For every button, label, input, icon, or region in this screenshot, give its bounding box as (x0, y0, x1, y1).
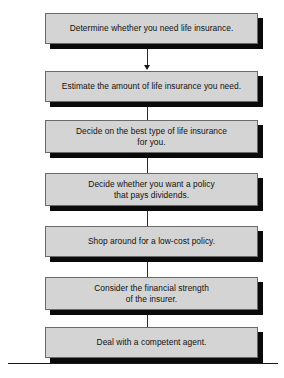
flowchart-connector-1-2 (143, 49, 152, 70)
flowchart-node-4-label: Decide whether you want a policy that pa… (82, 179, 220, 201)
connector-stem (147, 158, 148, 173)
flowchart-node-3-label: Decide on the best type of life insuranc… (70, 126, 233, 148)
connector-stem (147, 49, 148, 65)
bottom-divider (8, 363, 278, 364)
flowchart-node-1-label: Determine whether you need life insuranc… (64, 23, 240, 34)
flowchart-node-1: Determine whether you need life insuranc… (45, 13, 258, 44)
flowchart-diagram: Determine whether you need life insuranc… (0, 0, 284, 378)
flowchart-node-5: Shop around for a low-cost policy. (45, 226, 258, 257)
flowchart-node-2: Estimate the amount of life insurance yo… (45, 71, 258, 102)
flowchart-node-6-label: Consider the financial strength of the i… (88, 283, 215, 305)
flowchart-node-2-label: Estimate the amount of life insurance yo… (56, 81, 247, 92)
connector-stem (147, 107, 148, 120)
flowchart-node-7: Deal with a competent agent. (45, 327, 258, 358)
connector-stem (147, 315, 148, 327)
connector-stem (147, 211, 148, 226)
flowchart-node-7-label: Deal with a competent agent. (91, 337, 213, 348)
flowchart-node-6: Consider the financial strength of the i… (45, 277, 258, 310)
flowchart-node-4: Decide whether you want a policy that pa… (45, 173, 258, 206)
connector-stem (147, 262, 148, 277)
arrowhead-icon (144, 65, 150, 70)
flowchart-node-5-label: Shop around for a low-cost policy. (82, 236, 221, 247)
flowchart-node-3: Decide on the best type of life insuranc… (45, 120, 258, 153)
